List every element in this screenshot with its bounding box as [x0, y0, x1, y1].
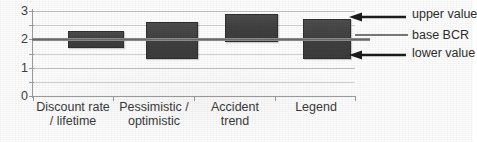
base-bcr-reference-line: [32, 38, 370, 41]
gridline-3-0: [33, 11, 355, 12]
plot-area: [33, 11, 355, 96]
y-tick-1-0: [29, 68, 34, 69]
y-tick-3-0: [29, 11, 34, 12]
y-axis-label-3: 3: [4, 5, 28, 17]
x-category-line1: Discount rate: [29, 101, 117, 115]
gridline-1-0: [33, 68, 355, 69]
annotation-upper-value: upper value: [412, 8, 477, 21]
x-category-line2: trend: [191, 115, 279, 129]
x-category-discount-rate-lifetime: Discount rate / lifetime: [29, 101, 117, 128]
y-axis-label-1: 1: [4, 62, 28, 74]
x-category-legend: Legend: [272, 101, 360, 115]
x-category-line2: optimistic: [110, 115, 198, 129]
lower-value-arrow-icon: [348, 50, 408, 60]
y-axis-label-2: 2: [4, 33, 28, 45]
y-axis-label-0: 0: [4, 90, 28, 102]
x-category-line1: Accident: [191, 101, 279, 115]
x-category-accident-trend: Accident trend: [191, 101, 279, 128]
x-category-pessimistic-optimistic: Pessimistic / optimistic: [110, 101, 198, 128]
y-tick-0-5: [29, 82, 34, 83]
x-category-line1: Legend: [272, 101, 360, 115]
annotation-lower-value: lower value: [412, 47, 475, 60]
y-tick-2-5: [29, 25, 34, 26]
base-bcr-leader-line: [355, 34, 408, 36]
annotation-base-bcr: base BCR: [412, 29, 469, 42]
y-tick-1-5: [29, 54, 34, 55]
upper-value-arrow-icon: [348, 12, 408, 22]
x-category-line1: Pessimistic /: [110, 101, 198, 115]
x-category-line2: / lifetime: [29, 115, 117, 129]
gridline-0-5: [33, 82, 355, 83]
